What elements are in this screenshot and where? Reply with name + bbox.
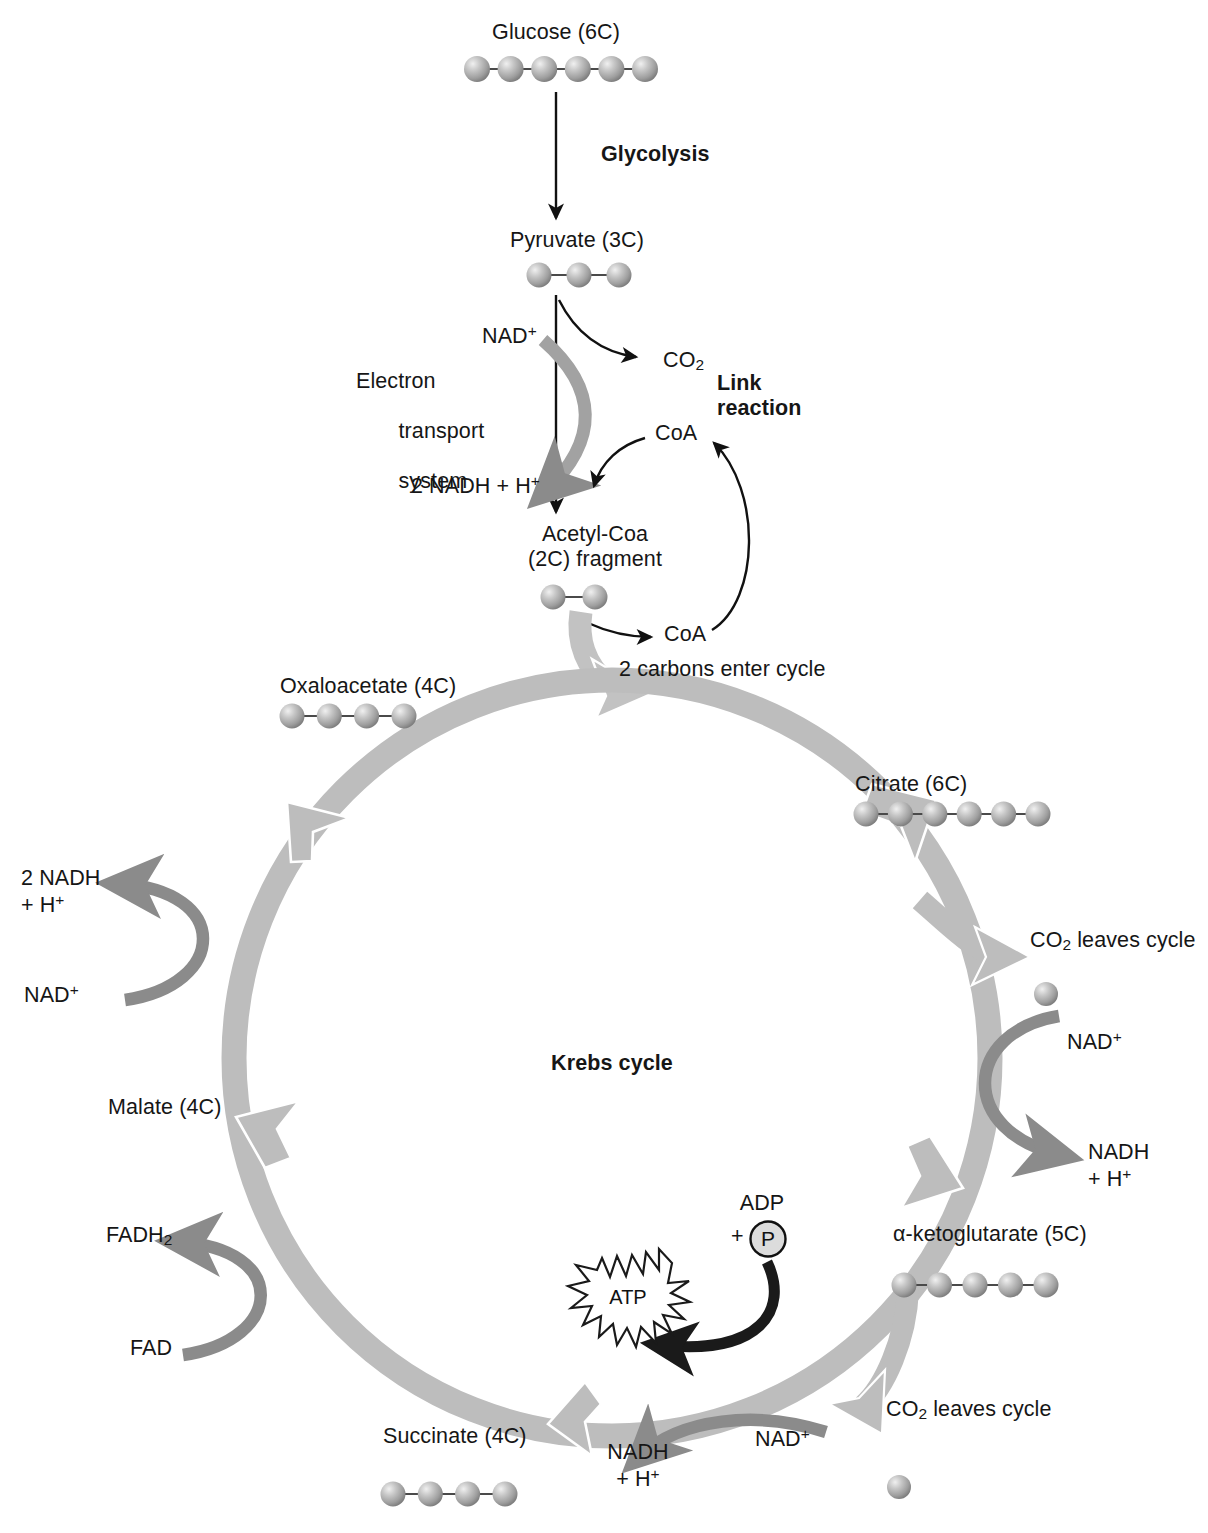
- etc-nad-input-label: NAD+: [482, 322, 537, 348]
- left-nadh-product-label: 2 NADH+ H+: [21, 866, 100, 917]
- etc-nadh-output-label: 2 NADH + H+: [411, 472, 540, 498]
- glycolysis-label: Glycolysis: [601, 142, 710, 167]
- left-nad-reactant-label: NAD+: [24, 981, 79, 1007]
- malate-label: Malate (4C): [108, 1095, 221, 1120]
- co2-upper-leaves-label: CO2 leaves cycle: [1030, 928, 1196, 954]
- right-nadh-product-label: NADH+ H+: [1088, 1140, 1149, 1191]
- bottom-nadh-product-label: NADH+ H+: [607, 1440, 668, 1491]
- carbons-enter-note: 2 carbons enter cycle: [619, 657, 825, 682]
- co2-lower-leaves-label: CO2 leaves cycle: [886, 1397, 1052, 1423]
- molecule-acetyl-coa: [538, 580, 618, 614]
- bottom-nad-reactant-label: NAD+: [755, 1425, 810, 1451]
- molecule-co2-upper: [1030, 978, 1062, 1010]
- molecule-alpha-ketoglutarate: [890, 1268, 1060, 1302]
- coa-out-label: CoA: [664, 622, 706, 647]
- phosphate-label: P: [761, 1227, 775, 1251]
- krebs-cycle-diagram: Glucose (6C) Glycolysis Pyruvate (3C) NA…: [0, 0, 1208, 1533]
- right-nad-reactant-label: NAD+: [1067, 1028, 1122, 1054]
- fadh2-label: FADH2: [106, 1223, 172, 1249]
- link-reaction-heading: Linkreaction: [717, 371, 801, 421]
- coa-recycle-arc: [712, 443, 749, 630]
- citrate-label: Citrate (6C): [855, 772, 967, 797]
- fad-arc: [178, 1242, 261, 1355]
- co2-release-arrow: [559, 300, 636, 357]
- coa-in-label: CoA: [655, 421, 697, 446]
- succinate-label: Succinate (4C): [383, 1424, 527, 1449]
- coa-out-arrow: [588, 623, 651, 637]
- molecule-co2-lower: [883, 1471, 915, 1503]
- molecule-citrate: [852, 797, 1052, 831]
- molecule-oxaloacetate: [278, 699, 418, 733]
- coa-in-arrow: [594, 438, 645, 486]
- link-co2-label: CO2: [663, 348, 704, 374]
- acetyl-coa-label: Acetyl-Coa(2C) fragment: [528, 522, 662, 572]
- adp-plus-label: +: [731, 1224, 744, 1249]
- fad-label: FAD: [130, 1336, 172, 1361]
- pyruvate-label: Pyruvate (3C): [510, 228, 644, 253]
- molecule-pyruvate: [524, 258, 634, 292]
- krebs-cycle-center-label: Krebs cycle: [551, 1051, 673, 1076]
- adp-label: ADP: [740, 1191, 785, 1216]
- glucose-label: Glucose (6C): [492, 20, 620, 45]
- atp-label: ATP: [609, 1286, 646, 1309]
- molecule-glucose: [461, 52, 661, 86]
- etc-nad-arc: [543, 340, 585, 492]
- oxaloacetate-label: Oxaloacetate (4C): [280, 674, 456, 699]
- alpha-ketoglutarate-label: α-ketoglutarate (5C): [893, 1222, 1087, 1247]
- left-nad-arc: [119, 884, 203, 1000]
- molecule-succinate: [379, 1477, 519, 1511]
